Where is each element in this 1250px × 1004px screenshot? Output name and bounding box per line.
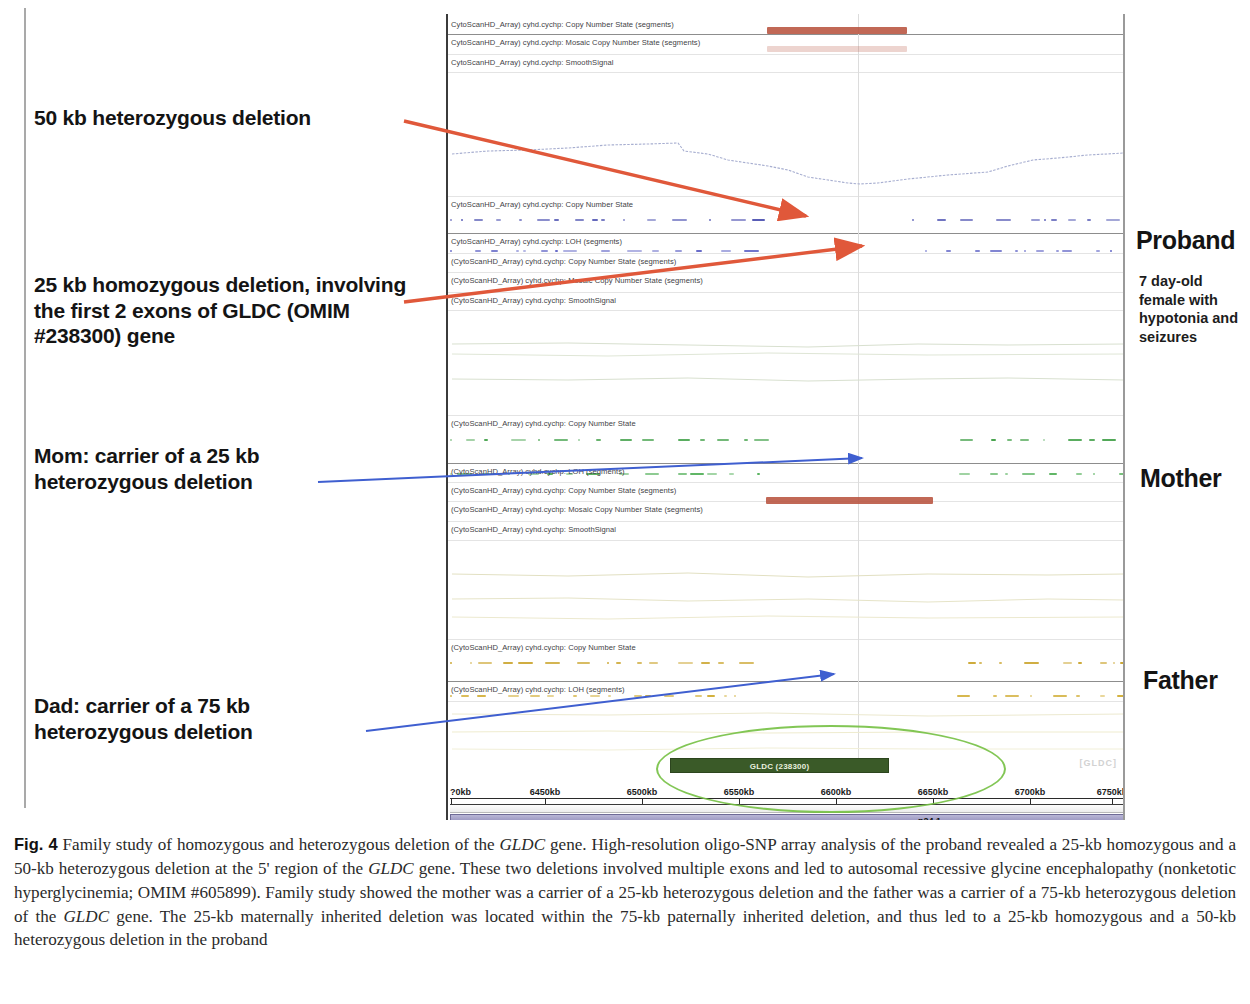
probe-marker (990, 250, 1002, 252)
track-label: CytoScanHD_Array) cyhd.cychp: Copy Numbe… (451, 20, 674, 29)
probe-marker (592, 219, 598, 221)
proband-secondary-trace-3 (452, 353, 1124, 356)
ruler-tick-label: 6700kb (1015, 787, 1046, 797)
probe-marker (721, 250, 731, 252)
probe-marker (475, 250, 481, 252)
father-loh-probes (448, 695, 1125, 698)
probe-marker (678, 439, 690, 441)
cytoband-label: p24.1 (918, 816, 941, 820)
probe-marker (709, 219, 711, 221)
probe-marker (1044, 219, 1046, 221)
probe-marker (690, 473, 704, 475)
probe-marker (695, 695, 702, 697)
probe-marker (1093, 473, 1095, 475)
probe-marker (537, 219, 550, 221)
probe-marker (607, 662, 609, 664)
probe-marker (678, 662, 693, 664)
annotation-mom-carrier: Mom: carrier of a 25 kb heterozygous del… (34, 443, 364, 494)
annotation-25kb-homozygous-deletion: 25 kb homozygous deletion, involving the… (34, 272, 434, 349)
probe-marker (645, 695, 651, 697)
probe-marker (990, 473, 998, 475)
probe-marker (461, 219, 463, 221)
probe-marker (1076, 695, 1080, 697)
probe-marker (577, 662, 590, 664)
probe-marker (744, 250, 759, 252)
track-label: (CytoScanHD_Array) cyhd.cychp: LOH (segm… (451, 467, 625, 476)
probe-marker (1020, 439, 1029, 441)
probe-marker (1089, 439, 1095, 441)
probe-marker (993, 695, 997, 697)
probe-marker (1053, 695, 1067, 697)
mother-smoothsignal-trace-2 (452, 598, 1124, 602)
probe-marker (511, 439, 526, 441)
probe-marker (601, 250, 610, 252)
probe-marker (752, 219, 765, 221)
caption-figure-label: Fig. 4 (14, 835, 58, 853)
probe-marker (530, 695, 540, 697)
track-label: (CytoScanHD_Array) cyhd.cychp: LOH (segm… (451, 685, 625, 694)
probe-marker (450, 662, 452, 664)
probe-marker (701, 662, 710, 664)
probe-marker (450, 439, 452, 441)
mother-copy-number-probes (448, 439, 1125, 442)
probe-marker (477, 695, 486, 697)
probe-marker (718, 662, 724, 664)
ruler-tick-label: ?0kb (450, 787, 471, 797)
probe-marker (960, 439, 973, 441)
probe-marker (652, 250, 659, 252)
probe-marker (975, 250, 980, 252)
track-label: CytoScanHD_Array) cyhd.cychp: Mosaic Cop… (451, 38, 700, 47)
caption-text-4: gene. The 25-kb maternally inherited del… (14, 907, 1236, 950)
track-label: CytoScanHD_Array) cyhd.cychp: LOH (segme… (451, 237, 622, 246)
probe-marker (450, 250, 452, 252)
ruler-tick-label: 6450kb (530, 787, 561, 797)
probe-marker (547, 695, 554, 697)
probe-marker (1015, 250, 1018, 252)
probe-marker (616, 662, 621, 664)
probe-marker (1076, 473, 1082, 475)
caption-gene-3: GLDC (63, 907, 109, 926)
probe-marker (623, 219, 625, 221)
probe-marker (578, 439, 580, 441)
probe-marker (729, 473, 734, 475)
probe-marker (555, 250, 558, 252)
probe-marker (672, 219, 687, 221)
probe-marker (1117, 695, 1124, 697)
track-label: (CytoScanHD_Array) cyhd.cychp: Copy Numb… (451, 419, 636, 428)
probe-marker (1102, 439, 1116, 441)
probe-marker (1005, 473, 1008, 475)
probe-marker (503, 662, 513, 664)
probe-marker (979, 662, 982, 664)
probe-marker (508, 695, 519, 697)
probe-marker (1100, 662, 1107, 664)
probe-marker (496, 219, 501, 221)
figure-caption: Fig. 4 Family study of homozygous and he… (14, 833, 1236, 952)
probe-marker (957, 695, 970, 697)
probe-marker (1068, 439, 1082, 441)
proband-loh-probes (448, 250, 1125, 253)
proband-description: 7 day-old female with hypotonia and seiz… (1139, 272, 1247, 346)
probe-marker (642, 439, 654, 441)
probe-marker (1110, 250, 1112, 252)
proband-secondary-trace-2 (452, 378, 1124, 381)
probe-marker (696, 250, 702, 252)
annotation-50kb-heterozygous-deletion: 50 kb heterozygous deletion (34, 105, 424, 131)
probe-marker (647, 219, 656, 221)
proband-copy-number-probes (448, 219, 1125, 222)
track-label: CytoScanHD_Array) cyhd.cychp: SmoothSign… (451, 58, 613, 67)
track-label: CytoScanHD_Array) cyhd.cychp: Copy Numbe… (451, 200, 633, 209)
page-left-rule (24, 8, 26, 808)
track-label: (CytoScanHD_Array) cyhd.cychp: Copy Numb… (451, 643, 636, 652)
track-label: (CytoScanHD_Array) cyhd.cychp: SmoothSig… (451, 296, 616, 305)
proband-deletion-segment-bar (767, 27, 907, 34)
annotation-dad-carrier: Dad: carrier of a 75 kb heterozygous del… (34, 693, 364, 744)
mother-smoothsignal-trace-1 (452, 573, 1124, 577)
caption-gene-1: GLDC (500, 835, 546, 854)
ruler-tick-label: 6500kb (627, 787, 658, 797)
probe-marker (724, 695, 727, 697)
probe-marker (1113, 662, 1115, 664)
father-copy-number-probes (448, 662, 1125, 665)
probe-marker (563, 250, 577, 252)
father-smoothsignal-trace-1 (452, 713, 1124, 716)
probe-marker (1096, 250, 1100, 252)
